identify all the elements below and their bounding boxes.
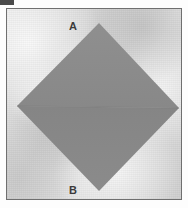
- lower-triangle: [17, 106, 179, 191]
- figure-root: A B: [0, 0, 188, 208]
- diamond-shape: [7, 9, 182, 200]
- vertex-label-b: B: [69, 185, 77, 196]
- figure-plate-frame: A B: [6, 8, 182, 200]
- vertex-label-a: A: [69, 21, 77, 32]
- scan-artifact: [0, 0, 14, 5]
- upper-triangle: [17, 23, 179, 108]
